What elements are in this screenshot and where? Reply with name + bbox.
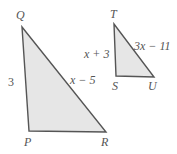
vertex-label-u: U: [148, 80, 157, 92]
side-label-ts: x + 3: [84, 48, 109, 60]
side-label-tu: 3x − 11: [134, 40, 171, 52]
side-label-qp: 3: [8, 76, 14, 88]
vertex-label-s: S: [112, 80, 118, 92]
side-label-qr: x − 5: [70, 74, 95, 86]
similar-triangles-diagram: Q P R 3 x − 5 T S U x + 3 3x − 11: [0, 0, 177, 154]
vertex-label-q: Q: [16, 9, 25, 21]
vertex-label-p: P: [24, 136, 31, 148]
vertex-label-r: R: [101, 136, 108, 148]
vertex-label-t: T: [110, 8, 117, 20]
